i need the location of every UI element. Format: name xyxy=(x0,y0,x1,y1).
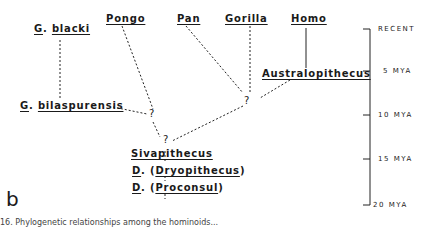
panel-label: b xyxy=(6,188,19,210)
taxon-dryopithecus: D. (Dryopithecus) xyxy=(132,165,245,177)
taxon-proconsul: D. (Proconsul) xyxy=(132,182,224,194)
taxon-g-blacki: G. blacki xyxy=(34,23,90,35)
taxon-pan: Pan xyxy=(177,13,200,25)
taxon-pongo: Pongo xyxy=(106,13,145,25)
timescale-20mya: 20 MYA xyxy=(373,201,408,209)
taxon-australopithecus: Australopithecus xyxy=(262,68,371,80)
timescale-5mya: 5 MYA xyxy=(383,67,412,75)
taxon-g-bilaspurensis: G. bilaspurensis xyxy=(20,100,123,112)
uncertain-node-right: ? xyxy=(244,96,249,106)
timescale-recent: RECENT xyxy=(378,25,415,33)
timescale-10mya: 10 MYA xyxy=(378,111,413,119)
taxon-homo: Homo xyxy=(291,13,327,25)
taxon-gorilla: Gorilla xyxy=(225,13,268,25)
uncertain-node-left: ? xyxy=(149,109,154,119)
figure-caption: 16. Phylogenetic relationships among the… xyxy=(0,218,218,227)
uncertain-node-lower: ? xyxy=(163,135,168,145)
taxon-sivapithecus: Sivapithecus xyxy=(131,148,213,160)
timescale-15mya: 15 MYA xyxy=(378,155,413,163)
